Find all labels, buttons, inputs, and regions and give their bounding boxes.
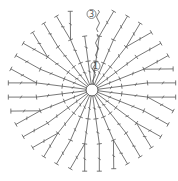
round-label-1: 1 (93, 63, 98, 71)
crochet-chart (0, 0, 178, 181)
round-label-3: 3 (89, 11, 94, 19)
magic-ring (86, 84, 98, 96)
